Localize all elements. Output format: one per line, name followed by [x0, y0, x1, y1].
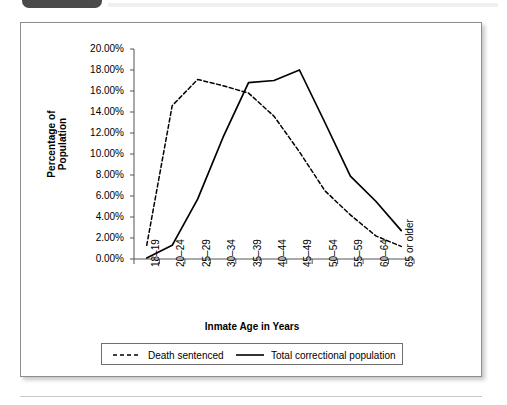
- y-axis-tick-label: 4.00%: [68, 212, 124, 222]
- x-axis-tick-label: 50–54: [329, 239, 339, 267]
- y-axis-tick-label: 8.00%: [68, 170, 124, 180]
- figure-box: Percentage of Population 20.00%18.00%16.…: [20, 22, 482, 377]
- x-axis-tick-label: 60–64: [380, 239, 390, 267]
- y-axis-ticks: [130, 49, 134, 259]
- x-axis-tick-label: 35–39: [253, 239, 263, 267]
- bottom-rule: [20, 396, 482, 397]
- y-axis-tick-label: 20.00%: [68, 44, 124, 54]
- page-header: [0, 0, 507, 14]
- x-axis-tick-label: 65 or older: [405, 219, 415, 267]
- chart-legend: Death sentenced Total correctional popul…: [101, 343, 403, 365]
- legend-item-death-sentenced: Death sentenced: [112, 348, 224, 362]
- series-line-total-correctional-population: [147, 70, 402, 258]
- x-axis-title: Inmate Age in Years: [21, 321, 483, 332]
- x-axis-tick-label: 20–24: [176, 239, 186, 267]
- legend-swatch-dashed: [112, 350, 142, 360]
- legend-label: Death sentenced: [148, 350, 224, 361]
- x-axis-tick-label: 55–59: [354, 239, 364, 267]
- legend-item-total-correctional-population: Total correctional population: [235, 348, 396, 362]
- line-chart: Percentage of Population 20.00%18.00%16.…: [21, 23, 483, 378]
- header-rule: [108, 3, 498, 7]
- y-axis-tick-label: 16.00%: [68, 86, 124, 96]
- header-badge: [22, 0, 102, 8]
- x-axis-tick-label: 18–19: [151, 239, 161, 267]
- y-axis-tick-label: 2.00%: [68, 233, 124, 243]
- y-axis-tick-label: 10.00%: [68, 149, 124, 159]
- y-axis-tick-label: 14.00%: [68, 107, 124, 117]
- y-axis-title: Percentage of Population: [46, 84, 68, 204]
- x-axis-tick-label: 45–49: [303, 239, 313, 267]
- y-axis-tick-label: 12.00%: [68, 128, 124, 138]
- y-axis-tick-label: 6.00%: [68, 191, 124, 201]
- data-series-group: [147, 70, 402, 258]
- y-axis-tick-label: 0.00%: [68, 254, 124, 264]
- x-axis-tick-label: 40–44: [278, 239, 288, 267]
- x-axis-tick-label: 30–34: [227, 239, 237, 267]
- legend-label: Total correctional population: [271, 350, 396, 361]
- legend-swatch-solid: [235, 350, 265, 360]
- y-axis-tick-label: 18.00%: [68, 65, 124, 75]
- x-axis-tick-label: 25–29: [202, 239, 212, 267]
